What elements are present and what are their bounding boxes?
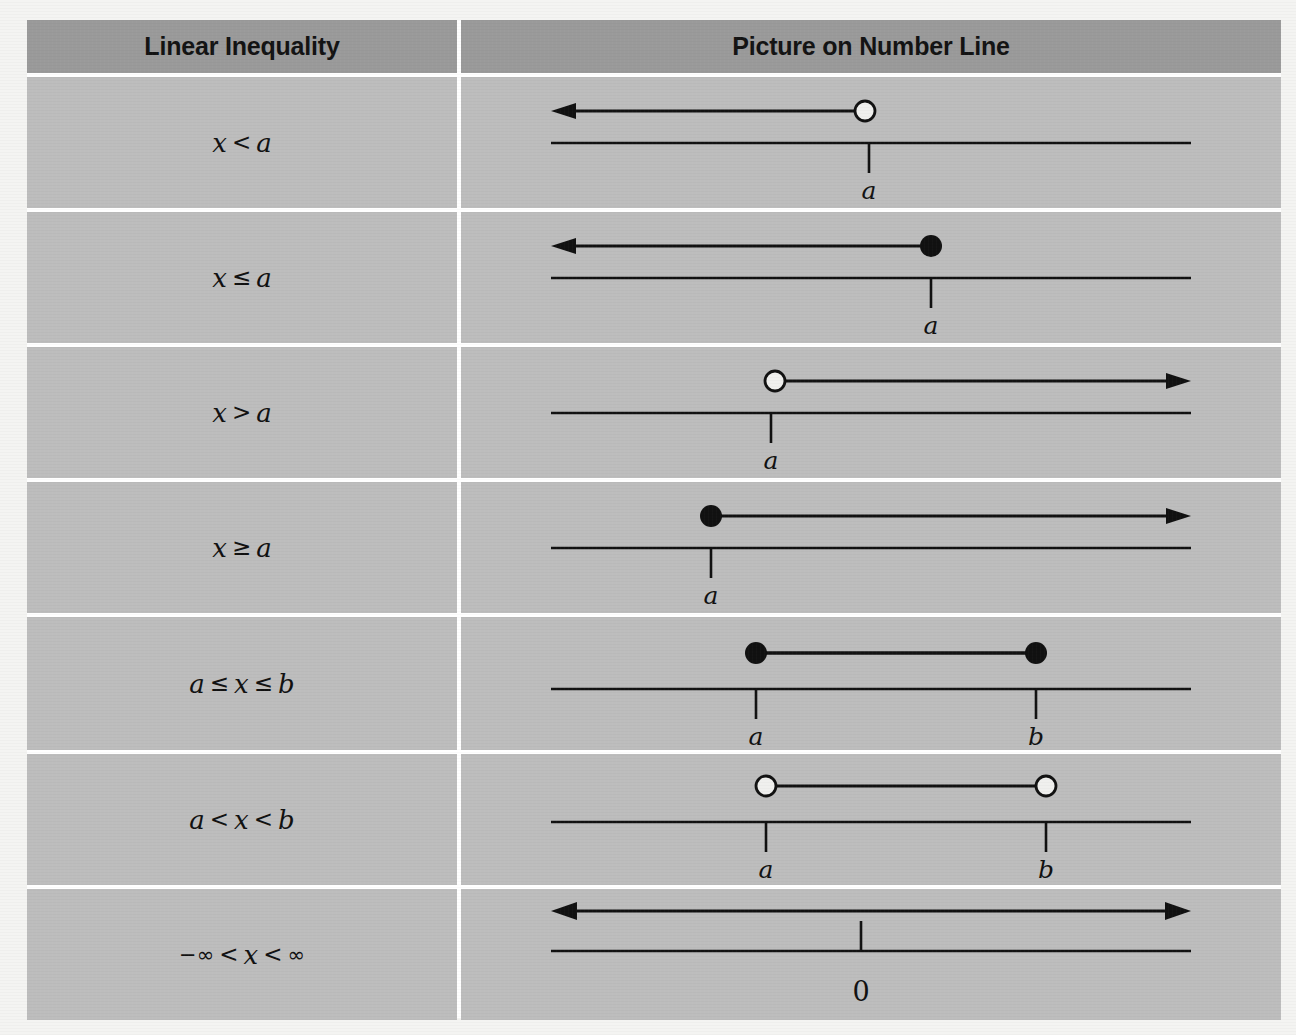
inequality-lhs: x (212, 533, 227, 563)
inequality-expression: −∞ < x < ∞ (27, 889, 457, 1020)
closed-endpoint-dot (920, 235, 942, 257)
inequality-cell: a ≤ x ≤ b (27, 617, 457, 750)
number-line-graphic-ray-right-closed: a (461, 482, 1281, 613)
inequality-rhs: a (256, 398, 272, 428)
number-line-graphic-double-arrow: 0 (461, 889, 1281, 1020)
table-row: x ≥ a a (27, 482, 1281, 613)
inequality-operator-2: < (254, 806, 273, 832)
inequality-lhs: x (212, 263, 227, 293)
inequality-expression: x ≤ a (27, 212, 457, 343)
inequality-operator-2: ≤ (254, 670, 273, 696)
closed-endpoint-dot (700, 505, 722, 527)
tick-label-b: b (1038, 855, 1054, 884)
number-line-graphic-segment-closed: a b (461, 617, 1281, 750)
inequality-cell: x > a (27, 347, 457, 478)
closed-endpoint-dot-a (745, 642, 767, 664)
number-line-cell: a (461, 482, 1281, 613)
inequality-expression: x ≥ a (27, 482, 457, 613)
column-header-picture-on-number-line: Picture on Number Line (461, 20, 1281, 73)
tick-label-b: b (1028, 722, 1044, 750)
arrowhead-right-icon (1165, 902, 1191, 920)
number-line-cell: a (461, 347, 1281, 478)
inequality-cell: x < a (27, 77, 457, 208)
inequality-mid: x (234, 805, 249, 835)
inequality-lhs: x (212, 128, 227, 158)
tick-label-a: a (862, 176, 877, 205)
table-row: x < a a (27, 77, 1281, 208)
number-line-cell: a (461, 212, 1281, 343)
tick-label-a: a (704, 581, 719, 610)
arrowhead-left-icon (551, 238, 576, 254)
inequality-operator: < (232, 129, 251, 155)
open-endpoint-dot-a (756, 776, 776, 796)
column-header-linear-inequality: Linear Inequality (27, 20, 457, 73)
inequality-rhs: b (278, 805, 295, 835)
inequality-operator: ≥ (232, 534, 251, 560)
inequality-lhs: a (189, 805, 205, 835)
inequality-expression: a ≤ x ≤ b (27, 617, 457, 750)
tick-label-zero: 0 (852, 976, 869, 1007)
closed-endpoint-dot-b (1025, 642, 1047, 664)
linear-inequality-table: Linear Inequality Picture on Number Line… (27, 20, 1281, 1018)
tick-label-a: a (759, 855, 774, 884)
inequality-lhs: a (189, 669, 205, 699)
inequality-cell: a < x < b (27, 754, 457, 885)
number-line-graphic-ray-right-open: a (461, 347, 1281, 478)
number-line-cell: a (461, 77, 1281, 208)
table-row: a ≤ x ≤ b a b (27, 617, 1281, 750)
inequality-expression: x < a (27, 77, 457, 208)
inequality-rhs: a (256, 533, 272, 563)
inequality-operator: > (232, 399, 251, 425)
number-line-cell: a b (461, 617, 1281, 750)
inequality-lhs: x (212, 398, 227, 428)
inequality-cell: −∞ < x < ∞ (27, 889, 457, 1020)
open-endpoint-dot (855, 101, 875, 121)
inequality-cell: x ≤ a (27, 212, 457, 343)
arrowhead-right-icon (1166, 373, 1191, 389)
number-line-cell: 0 (461, 889, 1281, 1020)
column-header-picture-on-number-line-label: Picture on Number Line (461, 20, 1281, 73)
arrowhead-left-icon (551, 103, 576, 119)
inequality-expression: a < x < b (27, 754, 457, 885)
number-line-graphic-ray-left-open: a (461, 77, 1281, 208)
inequality-operator: < (219, 941, 238, 967)
inequality-rhs: b (278, 669, 295, 699)
inequality-lhs: −∞ (179, 943, 214, 967)
inequality-cell: x ≥ a (27, 482, 457, 613)
inequality-operator-2: < (263, 941, 282, 967)
number-line-graphic-ray-left-closed: a (461, 212, 1281, 343)
inequality-rhs: ∞ (287, 943, 305, 967)
table-row: x > a a (27, 347, 1281, 478)
table-row: x ≤ a a (27, 212, 1281, 343)
inequality-operator: ≤ (210, 670, 229, 696)
number-line-cell: a b (461, 754, 1281, 885)
inequality-operator: < (210, 806, 229, 832)
page-root: Linear Inequality Picture on Number Line… (0, 0, 1296, 1035)
arrowhead-right-icon (1166, 508, 1191, 524)
column-header-linear-inequality-label: Linear Inequality (27, 20, 457, 73)
table-row: a < x < b a b (27, 754, 1281, 885)
inequality-mid: x (243, 940, 258, 970)
arrowhead-left-icon (551, 902, 577, 920)
inequality-operator: ≤ (232, 264, 251, 290)
inequality-expression: x > a (27, 347, 457, 478)
inequality-rhs: a (256, 128, 272, 158)
inequality-mid: x (234, 669, 249, 699)
inequality-rhs: a (256, 263, 272, 293)
open-endpoint-dot (765, 371, 785, 391)
tick-label-a: a (764, 446, 779, 475)
number-line-graphic-segment-open: a b (461, 754, 1281, 885)
open-endpoint-dot-b (1036, 776, 1056, 796)
table-header-row: Linear Inequality Picture on Number Line (27, 20, 1281, 73)
table-row: −∞ < x < ∞ 0 (27, 889, 1281, 1020)
tick-label-a: a (749, 722, 764, 750)
tick-label-a: a (924, 311, 939, 340)
